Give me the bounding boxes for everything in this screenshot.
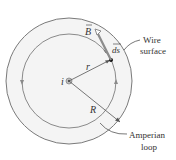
label-r: r xyxy=(86,61,90,72)
label-amperian-2: loop xyxy=(141,142,158,152)
label-ds: ds xyxy=(112,45,121,55)
label-R: R xyxy=(89,104,96,115)
label-current: i xyxy=(61,76,64,87)
label-wire-2: surface xyxy=(140,46,166,56)
wire-surface-leader xyxy=(124,40,140,50)
label-B: B xyxy=(85,26,91,37)
label-wire-1: Wire xyxy=(143,35,161,45)
label-amperian-1: Amperian xyxy=(129,130,165,140)
amperian-loop-diagram: i r R B ds Wire surface Amperian loop xyxy=(0,0,176,160)
